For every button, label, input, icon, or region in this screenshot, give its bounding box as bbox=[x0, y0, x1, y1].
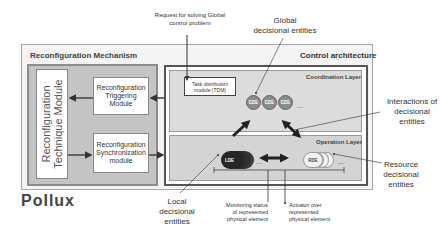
local-line-1: Local bbox=[152, 197, 202, 207]
interactions-leader bbox=[294, 112, 380, 130]
interactions-line-3: entities bbox=[380, 117, 444, 127]
resource-line-1: Resource bbox=[376, 160, 426, 170]
local-leader bbox=[180, 155, 218, 193]
interactions-annotation: Interactions of decisional entities bbox=[380, 97, 444, 127]
request-annotation: Request for solving Global control probl… bbox=[150, 11, 230, 27]
actuator-line-2: represented bbox=[289, 209, 339, 216]
monitoring-annotation: Monitoring status of represented physica… bbox=[220, 202, 268, 223]
global-line-1: Global bbox=[250, 16, 320, 26]
interactions-line-2: decisional bbox=[380, 107, 444, 117]
global-line-2: decisional entities bbox=[250, 26, 320, 36]
request-line-2: control problem bbox=[150, 19, 230, 27]
actuator-line-3: physical element bbox=[289, 216, 339, 223]
resource-annotation: Resource decisional entities bbox=[376, 160, 426, 190]
coord-to-local-arrow bbox=[233, 124, 246, 136]
interactions-line-1: Interactions of bbox=[380, 97, 444, 107]
resource-line-3: entities bbox=[376, 180, 426, 190]
monitoring-line-2: of represented bbox=[220, 209, 268, 216]
monitoring-line-3: physical element bbox=[220, 216, 268, 223]
local-annotation: Local decisional entities bbox=[152, 197, 202, 227]
actuator-annotation: Actuator over represented physical eleme… bbox=[289, 202, 339, 223]
resource-line-2: decisional bbox=[376, 170, 426, 180]
local-line-2: decisional bbox=[152, 207, 202, 217]
local-line-3: entities bbox=[152, 217, 202, 227]
global-annotation: Global decisional entities bbox=[250, 16, 320, 36]
monitoring-line-1: Monitoring status bbox=[220, 202, 268, 209]
actuator-line-1: Actuator over bbox=[289, 202, 339, 209]
resource-leader bbox=[334, 154, 382, 163]
global-leader bbox=[256, 38, 283, 93]
request-line-1: Request for solving Global bbox=[150, 11, 230, 19]
coord-to-resource-arrow bbox=[286, 124, 299, 136]
